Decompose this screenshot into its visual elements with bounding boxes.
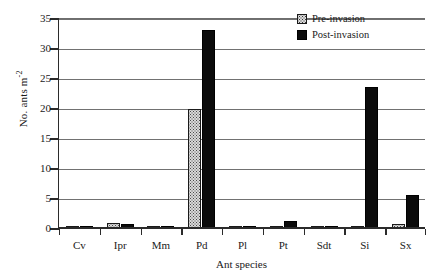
y-axis-tick [50, 48, 59, 49]
x-axis-tick [263, 229, 264, 235]
bar-Pd-post [202, 30, 215, 228]
plot-area: 05101520253035CvIprMmPdPlPtSdtSiSx [58, 18, 425, 228]
y-axis-tick-label: 10 [21, 163, 51, 174]
bar-Si-post [365, 87, 378, 228]
legend-item-post-invasion: Post-invasion [297, 28, 369, 41]
x-axis-tick [100, 229, 101, 235]
y-axis-tick-label: 30 [21, 43, 51, 54]
x-axis-tick [304, 229, 305, 235]
x-axis-tick-label: Si [344, 239, 385, 251]
gridline [59, 19, 425, 20]
y-axis-tick [50, 18, 59, 19]
legend-swatch-pre-invasion [297, 14, 307, 24]
ant-abundance-bar-chart: No. ants m-2 05101520253035CvIprMmPdPlPt… [0, 0, 440, 280]
y-axis-tick-label: 0 [21, 223, 51, 234]
x-axis-tick-label: Cv [59, 239, 100, 251]
chart-legend: Pre-invasion Post-invasion [297, 12, 369, 44]
x-axis-title: Ant species [58, 258, 425, 270]
gridline [59, 79, 425, 80]
x-axis-tick [181, 229, 182, 235]
y-axis-tick [50, 168, 59, 169]
y-axis-tick [50, 138, 59, 139]
y-axis-tick-label: 25 [21, 73, 51, 84]
x-axis-line [58, 227, 425, 229]
x-axis-tick [141, 229, 142, 235]
x-axis-tick-label: Pt [263, 239, 304, 251]
x-axis-tick-label: Mm [141, 239, 182, 251]
y-axis-tick-label: 5 [21, 193, 51, 204]
x-axis-tick-label: Pd [181, 239, 222, 251]
legend-label-pre-invasion: Pre-invasion [312, 12, 365, 25]
gridline [59, 49, 425, 50]
x-axis-tick-label: Pl [222, 239, 263, 251]
legend-label-post-invasion: Post-invasion [312, 28, 369, 41]
y-axis-tick-label: 15 [21, 133, 51, 144]
x-axis-tick-label: Sdt [304, 239, 345, 251]
x-axis-tick [425, 229, 426, 235]
x-axis-tick [222, 229, 223, 235]
y-axis-tick [50, 198, 59, 199]
y-axis-tick-label: 20 [21, 103, 51, 114]
bar-Sx-post [406, 195, 419, 228]
legend-swatch-post-invasion [297, 30, 307, 40]
x-axis-tick-label: Sx [385, 239, 426, 251]
bar-Pd-pre [188, 109, 201, 228]
legend-item-pre-invasion: Pre-invasion [297, 12, 369, 25]
y-axis-tick [50, 108, 59, 109]
y-axis-tick [50, 78, 59, 79]
y-axis-tick-label: 35 [21, 13, 51, 24]
x-axis-tick-label: Ipr [100, 239, 141, 251]
x-axis-tick [385, 229, 386, 235]
x-axis-tick [344, 229, 345, 235]
x-axis-tick [59, 229, 60, 235]
